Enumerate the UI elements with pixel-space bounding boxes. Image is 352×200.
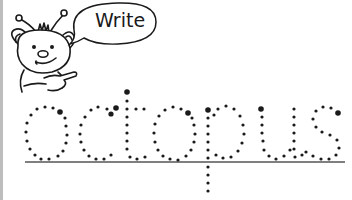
dotted-letter-t <box>124 89 146 160</box>
dotted-word-octopus <box>24 89 340 192</box>
dotted-letter-c <box>78 105 118 160</box>
dotted-letter-s <box>300 105 340 160</box>
dotted-letter-p <box>205 104 245 192</box>
bear-character-icon <box>12 10 77 92</box>
dotted-letter-u <box>258 106 296 160</box>
speech-bubble-text: Write <box>88 9 152 31</box>
dotted-letter-o-2 <box>152 105 196 161</box>
dotted-letter-o <box>24 105 68 160</box>
worksheet-canvas <box>0 0 352 200</box>
